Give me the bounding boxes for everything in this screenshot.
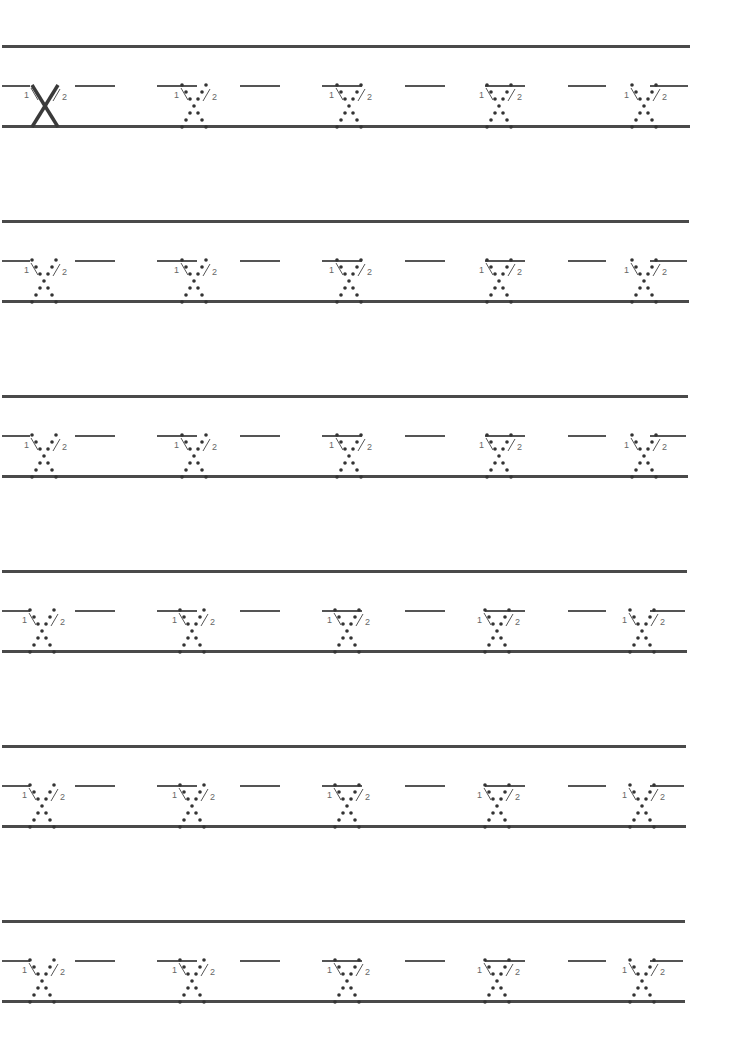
tracing-letter-x: 12: [608, 958, 668, 1002]
svg-text:2: 2: [365, 967, 370, 977]
tracing-letter-x: 12: [313, 958, 373, 1002]
svg-text:1: 1: [479, 265, 484, 275]
svg-text:2: 2: [515, 617, 520, 627]
svg-text:2: 2: [517, 92, 522, 102]
top-line: [2, 45, 690, 48]
svg-text:1: 1: [24, 90, 29, 100]
svg-text:1: 1: [622, 615, 627, 625]
svg-text:1: 1: [477, 615, 482, 625]
svg-text:1: 1: [24, 265, 29, 275]
svg-text:2: 2: [365, 792, 370, 802]
tracing-letter-x: 12: [158, 608, 218, 652]
tracing-letter-x: 12: [8, 608, 68, 652]
midline-dash: [568, 785, 606, 787]
tracing-letter-x: 12: [8, 958, 68, 1002]
tracing-letter-x: 12: [610, 258, 670, 302]
svg-text:1: 1: [477, 790, 482, 800]
svg-text:1: 1: [624, 90, 629, 100]
svg-text:1: 1: [172, 965, 177, 975]
midline-dash: [568, 435, 606, 437]
tracing-letter-x: 12: [313, 608, 373, 652]
svg-text:1: 1: [24, 440, 29, 450]
svg-text:1: 1: [327, 790, 332, 800]
tracing-letter-x: 12: [465, 83, 525, 127]
midline-dash: [240, 785, 280, 787]
top-line: [2, 745, 686, 748]
svg-text:2: 2: [60, 792, 65, 802]
tracing-letter-x: 12: [315, 433, 375, 477]
midline-dash: [405, 260, 445, 262]
writing-row: 1212121212: [0, 745, 734, 835]
tracing-letter-x: 12: [160, 83, 220, 127]
tracing-letter-x: 12: [158, 958, 218, 1002]
midline-dash: [405, 85, 445, 87]
svg-text:2: 2: [212, 267, 217, 277]
svg-text:2: 2: [517, 267, 522, 277]
tracing-letter-x: 12: [610, 433, 670, 477]
svg-text:2: 2: [367, 267, 372, 277]
svg-text:2: 2: [62, 442, 67, 452]
svg-text:1: 1: [174, 265, 179, 275]
midline-dash: [405, 785, 445, 787]
svg-text:1: 1: [327, 965, 332, 975]
svg-text:1: 1: [172, 790, 177, 800]
svg-text:2: 2: [60, 617, 65, 627]
tracing-letter-x: 12: [463, 958, 523, 1002]
svg-text:1: 1: [624, 265, 629, 275]
tracing-letter-x: 12: [10, 433, 70, 477]
top-line: [2, 395, 688, 398]
top-line: [2, 220, 689, 223]
writing-row: 1212121212: [0, 920, 734, 1010]
midline-dash: [240, 960, 280, 962]
svg-text:2: 2: [660, 617, 665, 627]
midline-dash: [75, 435, 115, 437]
midline-dash: [75, 85, 115, 87]
svg-text:1: 1: [329, 90, 334, 100]
svg-text:2: 2: [62, 267, 67, 277]
svg-text:2: 2: [367, 442, 372, 452]
midline-dash: [75, 960, 115, 962]
midline-dash: [240, 260, 280, 262]
midline-dash: [240, 610, 280, 612]
midline-dash: [75, 260, 115, 262]
midline-dash: [405, 435, 445, 437]
tracing-letter-x: 12: [463, 608, 523, 652]
tracing-letter-x: 12: [608, 608, 668, 652]
svg-text:1: 1: [622, 790, 627, 800]
svg-text:2: 2: [660, 967, 665, 977]
midline-dash: [405, 960, 445, 962]
tracing-letter-x: 12: [160, 433, 220, 477]
svg-text:1: 1: [479, 440, 484, 450]
svg-text:2: 2: [210, 967, 215, 977]
tracing-letter-x: 12: [10, 258, 70, 302]
svg-text:1: 1: [477, 965, 482, 975]
midline-dash: [568, 960, 606, 962]
tracing-letter-x: 12: [313, 783, 373, 827]
top-line: [2, 920, 685, 923]
midline-dash: [75, 610, 115, 612]
handwriting-worksheet: 1212121212121212121212121212121212121212…: [0, 0, 734, 1060]
model-letter-x: 12: [10, 83, 70, 127]
svg-text:2: 2: [515, 967, 520, 977]
writing-row: 1212121212: [0, 570, 734, 660]
svg-text:1: 1: [479, 90, 484, 100]
midline-dash: [568, 85, 606, 87]
midline-dash: [75, 785, 115, 787]
midline-dash: [240, 435, 280, 437]
midline-dash: [568, 610, 606, 612]
svg-text:2: 2: [517, 442, 522, 452]
svg-text:1: 1: [22, 615, 27, 625]
svg-text:2: 2: [662, 92, 667, 102]
tracing-letter-x: 12: [463, 783, 523, 827]
svg-text:2: 2: [210, 792, 215, 802]
writing-row: 1212121212: [0, 45, 734, 135]
svg-text:2: 2: [60, 967, 65, 977]
tracing-letter-x: 12: [610, 83, 670, 127]
tracing-letter-x: 12: [465, 258, 525, 302]
midline-dash: [405, 610, 445, 612]
svg-text:2: 2: [367, 92, 372, 102]
svg-text:2: 2: [212, 442, 217, 452]
svg-text:1: 1: [329, 440, 334, 450]
svg-text:2: 2: [62, 92, 67, 102]
tracing-letter-x: 12: [8, 783, 68, 827]
